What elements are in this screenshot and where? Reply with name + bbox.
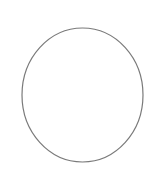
circle-drawing — [0, 0, 150, 180]
canvas — [0, 0, 150, 180]
ellipse-outline — [22, 28, 143, 162]
